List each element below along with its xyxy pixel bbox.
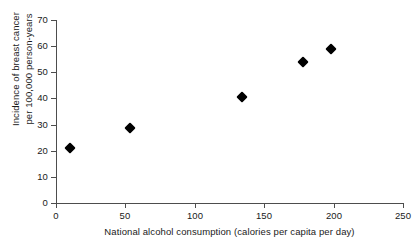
x-axis-tick <box>125 203 126 208</box>
y-axis-tick <box>51 98 56 99</box>
x-axis-tick-label: 250 <box>383 210 418 221</box>
x-axis-tick <box>195 203 196 208</box>
x-axis-line <box>56 203 403 204</box>
x-axis-tick <box>264 203 265 208</box>
x-axis-tick-label: 150 <box>244 210 284 221</box>
plot-area <box>0 0 418 245</box>
x-axis-tick <box>334 203 335 208</box>
y-axis-tick <box>51 125 56 126</box>
y-axis-title: Incidence of breast cancer per 100,000 p… <box>9 0 35 159</box>
data-point-marker <box>124 123 135 134</box>
data-point-marker <box>325 43 336 54</box>
y-axis-tick <box>51 20 56 21</box>
x-axis-tick-label: 200 <box>314 210 354 221</box>
y-axis-title-line-2: per 100,000 person-years <box>22 0 35 159</box>
y-axis-tick-label: 10 <box>8 171 48 182</box>
x-axis-tick-label: 100 <box>175 210 215 221</box>
x-axis-title: National alcohol consumption (calories p… <box>56 226 403 237</box>
y-axis-tick <box>51 46 56 47</box>
data-point-marker <box>236 91 247 102</box>
x-axis-tick <box>403 203 404 208</box>
y-axis-tick <box>51 72 56 73</box>
y-axis-title-line-1: Incidence of breast cancer <box>9 0 22 159</box>
scatter-chart-figure: 010203040506070 050100150200250 National… <box>0 0 418 245</box>
x-axis-tick <box>56 203 57 208</box>
y-axis-tick <box>51 177 56 178</box>
x-axis-tick-label: 0 <box>36 210 76 221</box>
y-axis-tick <box>51 151 56 152</box>
y-axis-tick-label: 0 <box>8 197 48 208</box>
x-axis-tick-label: 50 <box>105 210 145 221</box>
y-axis-line <box>56 20 57 204</box>
data-point-marker <box>64 142 75 153</box>
data-point-marker <box>297 56 308 67</box>
